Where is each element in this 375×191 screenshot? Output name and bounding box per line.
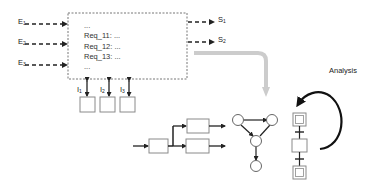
output-label-s2: S2 (218, 36, 226, 44)
interface-label-i2: I2 (100, 86, 105, 94)
input-label-e2: E2 (18, 38, 26, 46)
requirement-line: ... (84, 62, 90, 73)
output-label-s1: S1 (218, 16, 226, 24)
output-arrows (188, 22, 214, 42)
input-arrows (25, 24, 67, 65)
requirement-line: Req_13: ... (84, 52, 121, 63)
grafcet-chart (292, 113, 307, 179)
interface-label-i3: I3 (120, 86, 125, 94)
transformation-arrow (194, 53, 266, 92)
analysis-label: Analysis (329, 67, 357, 75)
input-label-e1: E1 (18, 18, 26, 26)
interface-boxes (80, 97, 135, 112)
requirement-line: Req_11: ... (84, 31, 120, 42)
input-label-e3: E3 (18, 59, 26, 67)
block-diagram (133, 119, 225, 153)
interface-label-i1: I1 (77, 86, 82, 94)
diagram-canvas (0, 0, 375, 191)
requirement-line: ... (84, 21, 90, 32)
state-graph (233, 115, 278, 172)
requirement-line: Req_12: ... (84, 42, 121, 53)
